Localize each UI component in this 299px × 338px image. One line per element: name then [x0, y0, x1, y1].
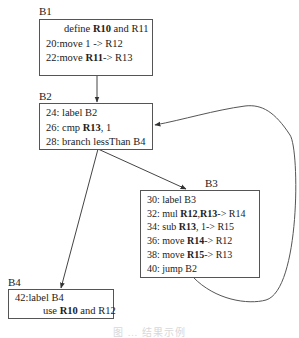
block-label-b2: B2 — [39, 90, 52, 102]
block-b3: 30: label B3 32: mul R12,R13-> R14 34: s… — [140, 190, 260, 278]
b1-line-1: 20:move 1 -> R12 — [46, 37, 146, 52]
b4-line-1: use R10 and R12 — [15, 305, 107, 318]
b3-line-4: 38: move R15-> R13 — [147, 248, 253, 262]
block-label-b3: B3 — [205, 177, 218, 189]
block-b2: 24: label B2 26: cmp R13, 1 28: branch l… — [39, 103, 153, 150]
block-label-b1: B1 — [39, 5, 52, 17]
block-b1: define R10 and R11 20:move 1 -> R12 22:m… — [39, 19, 153, 76]
b3-line-1: 32: mul R12,R13-> R14 — [147, 207, 253, 221]
b3-line-0: 30: label B3 — [147, 193, 253, 207]
edge-b2-b3 — [98, 149, 186, 189]
b2-line-1: 26: cmp R13, 1 — [46, 121, 146, 136]
block-b4: 42:label B4 use R10 and R12 — [8, 289, 114, 319]
edge-b2-b4 — [61, 149, 98, 288]
b4-line-0: 42:label B4 — [15, 292, 107, 305]
block-label-b4: B4 — [8, 276, 21, 288]
figure-caption: 图 … 结果示例 — [0, 324, 299, 338]
b2-line-0: 24: label B2 — [46, 106, 146, 121]
b3-line-5: 40: jump B2 — [147, 262, 253, 276]
b3-line-3: 36: move R14-> R12 — [147, 234, 253, 248]
b2-line-2: 28: branch lessThan B4 — [46, 135, 146, 150]
b1-line-0: define R10 and R11 — [46, 22, 146, 37]
b1-line-2: 22:move R11-> R13 — [46, 51, 146, 66]
b3-line-2: 34: sub R13, 1-> R15 — [147, 220, 253, 234]
